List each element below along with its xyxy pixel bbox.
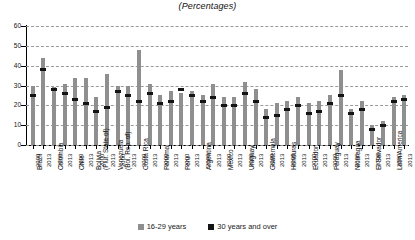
chart-title: (Percentages): [0, 1, 415, 11]
chart-legend: 16-29 years 30 years and over: [0, 222, 415, 231]
x-country-label: Uruguay: [248, 145, 255, 170]
x-tick: [309, 145, 310, 149]
x-tick: [287, 145, 288, 149]
x-year-label: 2013: [258, 154, 264, 167]
legend-label-30-over: 30 years and over: [217, 222, 277, 231]
marker-30-and-over: [125, 94, 131, 97]
x-country-label: Ecuador: [312, 146, 319, 170]
x-tick: [224, 145, 225, 149]
x-year-label: 2013: [46, 154, 52, 167]
bar-16-29: [179, 93, 183, 145]
x-tick: [319, 145, 320, 149]
marker-30-and-over: [263, 116, 269, 119]
marker-30-and-over: [178, 88, 184, 91]
marker-30-and-over: [306, 112, 312, 115]
x-year-label: 2013: [364, 154, 370, 167]
bar-16-29: [211, 84, 215, 145]
x-tick: [171, 145, 172, 149]
x-tick: [213, 145, 214, 149]
marker-30-and-over: [327, 102, 333, 105]
x-year-label: 2013: [385, 154, 391, 167]
x-year-label: 2013: [152, 154, 158, 167]
x-tick: [139, 145, 140, 149]
x-tick: [203, 145, 204, 149]
marker-30-and-over: [83, 102, 89, 105]
marker-30-and-over: [316, 110, 322, 113]
marker-30-and-over: [231, 104, 237, 107]
x-year-label: 2013: [131, 154, 137, 167]
x-year-label: 2013: [322, 154, 328, 167]
x-country-label: Mexico: [227, 149, 234, 170]
marker-30-and-over: [242, 92, 248, 95]
x-tick: [341, 145, 342, 149]
marker-30-and-over: [40, 68, 46, 71]
x-tick: [43, 145, 44, 149]
marker-30-and-over: [157, 102, 163, 105]
x-tick: [160, 145, 161, 149]
x-country-label: Honduras: [290, 142, 297, 170]
legend-item-30-over: 30 years and over: [208, 222, 277, 231]
bar-16-29: [392, 97, 396, 145]
marker-30-and-over: [189, 94, 195, 97]
marker-30-and-over: [369, 128, 375, 131]
chart-container: (Percentages) 0102030405060 200020132000…: [0, 0, 415, 240]
x-tick: [192, 145, 193, 149]
legend-swatch-16-29: [138, 224, 144, 230]
bar-16-29: [254, 89, 258, 145]
x-country-label: Paraguay: [333, 142, 340, 170]
marker-30-and-over: [401, 98, 407, 101]
x-tick: [150, 145, 151, 149]
x-year-label: 2013: [173, 154, 179, 167]
marker-30-and-over: [147, 92, 153, 95]
x-tick: [362, 145, 363, 149]
x-country-label: El Salvador: [375, 137, 382, 170]
y-tick-label-0: 0: [2, 142, 21, 149]
x-year-label: 2013: [110, 154, 116, 167]
x-year-label: 2013: [194, 154, 200, 167]
x-tick: [245, 145, 246, 149]
marker-30-and-over: [30, 94, 36, 97]
bar-16-29: [317, 101, 321, 145]
marker-30-and-over: [284, 108, 290, 111]
x-tick: [298, 145, 299, 149]
x-tick: [394, 145, 395, 149]
x-tick: [266, 145, 267, 149]
x-year-label: 2013: [407, 154, 413, 167]
x-country-label: Latin America: [396, 131, 403, 170]
marker-30-and-over: [72, 98, 78, 101]
y-tick-label-20: 20: [2, 102, 21, 109]
y-tick-label-50: 50: [2, 43, 21, 50]
x-country-label: Colombia: [57, 143, 64, 170]
y-tick-label-60: 60: [2, 23, 21, 30]
x-country-label: Peru: [184, 156, 191, 170]
x-tick: [330, 145, 331, 149]
bar-16-29: [190, 91, 194, 145]
bar-16-29: [339, 70, 343, 145]
legend-item-16-29: 16-29 years: [138, 222, 187, 231]
x-country-label: Panama: [163, 146, 170, 170]
x-country-label: Venezuela(Bol. Rep. of): [117, 132, 131, 170]
x-tick: [383, 145, 384, 149]
x-year-label: 2013: [279, 154, 285, 167]
x-tick: [181, 145, 182, 149]
bar-16-29: [137, 50, 141, 145]
x-year-label: 2013: [237, 154, 243, 167]
marker-30-and-over: [391, 100, 397, 103]
y-tick-label-30: 30: [2, 83, 21, 90]
x-tick: [65, 145, 66, 149]
x-year-label: 2013: [67, 154, 73, 167]
marker-30-and-over: [253, 100, 259, 103]
y-tick-label-10: 10: [2, 122, 21, 129]
x-tick: [404, 145, 405, 149]
marker-30-and-over: [380, 124, 386, 127]
bar-16-29: [307, 103, 311, 145]
marker-30-and-over: [221, 104, 227, 107]
x-axis-ticks: [26, 145, 408, 150]
legend-label-16-29: 16-29 years: [147, 222, 187, 231]
x-tick: [86, 145, 87, 149]
x-country-label: Nicaragua: [354, 140, 361, 170]
bar-16-29: [84, 78, 88, 145]
x-country-label: Chile: [78, 155, 85, 170]
x-tick: [351, 145, 352, 149]
x-tick: [75, 145, 76, 149]
